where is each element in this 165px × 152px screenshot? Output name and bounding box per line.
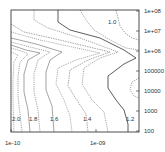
y-tick-label: 10000 [144, 88, 161, 94]
contour-label: 1.6 [50, 116, 59, 122]
contour-1-1 [80, 10, 139, 50]
contour-label: 1.8 [29, 116, 38, 122]
y-axis-ticks [136, 11, 139, 131]
y-tick-label: 100000 [144, 68, 165, 74]
y-tick-label: 100 [144, 128, 155, 134]
y-tick-label: 1e+06 [144, 48, 162, 54]
plot-frame [11, 10, 139, 132]
y-tick-label: 1e+07 [144, 28, 162, 34]
y-tick-label: 1000 [144, 108, 158, 114]
y-tick-label: 1e+08 [144, 8, 162, 14]
contour-label: 2.0 [12, 116, 21, 122]
x-tick-label: 1e-10 [5, 140, 21, 146]
contour-chart: 1e+08 1e+07 1e+06 100000 10000 1000 100 … [0, 0, 165, 152]
contour-1-4 [11, 24, 110, 132]
contour-label: 1.4 [83, 116, 92, 122]
contour-ring [130, 78, 139, 98]
contour-1-0 [116, 10, 139, 40]
x-axis-ticks [11, 129, 96, 132]
contour-label: 1.0 [108, 19, 117, 25]
contour-labels: 2.0 1.8 1.6 1.4 1.2 1.0 [12, 19, 135, 122]
contour-lines [11, 10, 139, 132]
x-tick-labels: 1e-10 1e-09 [5, 140, 106, 146]
x-tick-label: 1e-09 [90, 140, 106, 146]
contour-label: 1.2 [126, 116, 135, 122]
y-tick-labels: 1e+08 1e+07 1e+06 100000 10000 1000 100 [144, 8, 165, 134]
